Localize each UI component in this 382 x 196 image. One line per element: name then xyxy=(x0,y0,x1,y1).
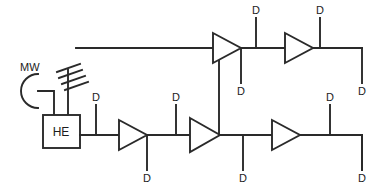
amplifier-bottom-3 xyxy=(272,120,300,150)
tap-label-b4: D xyxy=(239,172,247,184)
diagram-canvas: MW HE D D D D D D D D D D xyxy=(0,0,382,196)
network-schematic: MW HE D D D D D D D D D D xyxy=(0,0,382,196)
amplifier-top-1 xyxy=(213,33,241,63)
tap-label-b2: D xyxy=(143,172,151,184)
tap-label-t2: D xyxy=(237,85,245,97)
tap-label-t1: D xyxy=(252,4,260,16)
antenna-icon xyxy=(57,64,88,115)
amplifier-bottom-2 xyxy=(190,118,220,152)
tap-label-b5: D xyxy=(326,91,334,103)
amplifier-top-2 xyxy=(285,33,313,63)
tap-label-t4: D xyxy=(358,85,366,97)
satellite-dish-icon xyxy=(21,74,54,115)
tap-label-b6: D xyxy=(358,172,366,184)
tap-label-t3: D xyxy=(316,4,324,16)
he-label: HE xyxy=(53,125,70,139)
mw-label: MW xyxy=(20,61,40,73)
tap-label-b3: D xyxy=(172,91,180,103)
tap-label-b1: D xyxy=(92,91,100,103)
amplifier-bottom-1 xyxy=(119,120,147,150)
